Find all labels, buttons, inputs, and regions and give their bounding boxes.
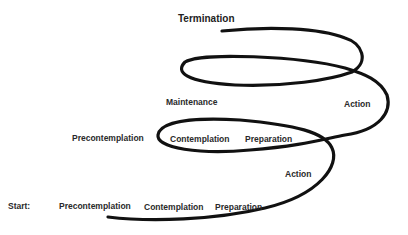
label-start: Start: xyxy=(8,202,30,211)
label-termination: Termination xyxy=(178,14,234,24)
label-maintenance: Maintenance xyxy=(166,98,218,107)
label-contemplation-2: Contemplation xyxy=(170,135,230,144)
label-action-lower: Action xyxy=(285,170,311,179)
label-preparation-2: Preparation xyxy=(245,135,292,144)
label-action-upper: Action xyxy=(344,100,370,109)
spiral-of-change-diagram: Termination Maintenance Action Precontem… xyxy=(0,0,408,235)
label-precontemplation-2: Precontemplation xyxy=(72,134,144,143)
label-contemplation-1: Contemplation xyxy=(144,203,204,212)
label-preparation-1: Preparation xyxy=(215,203,262,212)
label-precontemplation-1: Precontemplation xyxy=(59,202,131,211)
spiral-path xyxy=(0,0,408,235)
